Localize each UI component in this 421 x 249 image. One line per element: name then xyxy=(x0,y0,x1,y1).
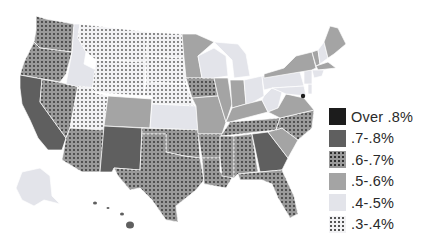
state-montana xyxy=(78,24,148,62)
state-maine xyxy=(324,26,346,58)
state-connecticut xyxy=(312,70,324,78)
state-arkansas xyxy=(198,134,222,158)
state-indiana xyxy=(230,80,246,108)
legend-item-over-8: Over .8% xyxy=(329,106,413,128)
swatch-7-8 xyxy=(329,130,346,147)
state-new-mexico xyxy=(100,126,142,172)
swatch-6-7 xyxy=(329,151,346,168)
state-hawaii xyxy=(93,202,134,229)
state-ohio xyxy=(244,76,264,104)
legend-label: .4-.5% xyxy=(351,195,394,211)
swatch-4-5 xyxy=(329,194,346,211)
legend-label: .6-.7% xyxy=(351,152,394,168)
state-south-dakota xyxy=(146,56,186,84)
state-florida xyxy=(238,170,298,218)
legend-label: .7-.8% xyxy=(351,130,394,146)
legend: Over .8% .7-.8% .6-.7% .5-.6% .4-.5% .3-… xyxy=(329,106,413,235)
legend-label: Over .8% xyxy=(351,109,413,125)
legend-label: .3-.4% xyxy=(351,216,394,232)
legend-item-7-8: .7-.8% xyxy=(329,128,413,150)
state-colorado xyxy=(104,96,152,128)
state-north-dakota xyxy=(146,32,184,58)
state-washington xyxy=(34,16,74,52)
legend-item-6-7: .6-.7% xyxy=(329,149,413,171)
state-iowa xyxy=(186,78,218,98)
legend-item-5-6: .5-.6% xyxy=(329,171,413,193)
legend-label: .5-.6% xyxy=(351,173,394,189)
state-new-jersey xyxy=(304,70,312,84)
state-kansas xyxy=(150,104,198,130)
swatch-5-6 xyxy=(329,173,346,190)
state-dc xyxy=(301,94,305,98)
state-mississippi xyxy=(220,136,234,178)
swatch-3-4 xyxy=(329,216,346,233)
state-wyoming xyxy=(92,60,146,96)
legend-item-4-5: .4-.5% xyxy=(329,192,413,214)
state-delaware xyxy=(308,84,312,94)
state-arizona xyxy=(62,128,104,172)
legend-item-3-4: .3-.4% xyxy=(329,214,413,236)
swatch-over-8 xyxy=(329,108,346,125)
state-alaska xyxy=(16,168,60,206)
